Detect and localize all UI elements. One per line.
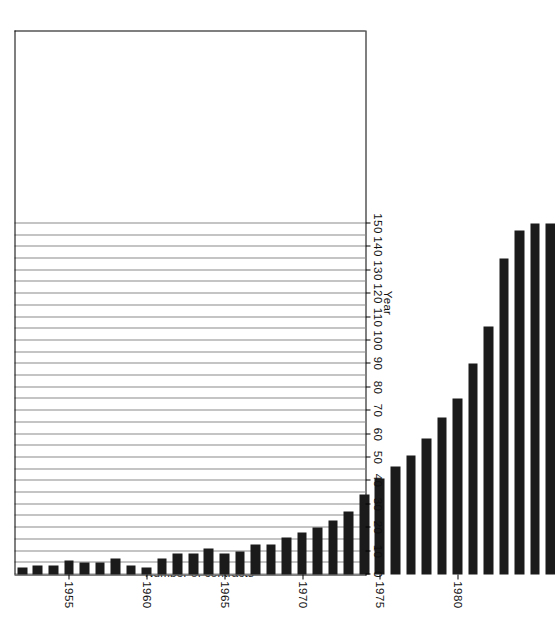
bar xyxy=(250,544,260,574)
bar xyxy=(95,562,105,574)
bar xyxy=(281,537,291,574)
value-tick xyxy=(365,386,370,387)
value-tick xyxy=(365,269,370,270)
value-tick-label: 40 xyxy=(371,474,383,488)
gridline xyxy=(14,222,365,223)
value-tick xyxy=(365,409,370,410)
value-tick xyxy=(365,479,370,480)
category-tick-label: 1970 xyxy=(296,581,308,608)
gridline xyxy=(14,339,365,340)
gridline xyxy=(14,503,365,504)
value-tick-label: 110 xyxy=(371,307,383,327)
category-tick-label: 1955 xyxy=(62,581,74,608)
gridline xyxy=(14,327,365,328)
value-tick xyxy=(365,550,370,551)
value-tick xyxy=(365,433,370,434)
value-tick-label: 0 xyxy=(371,571,383,578)
category-tick xyxy=(379,574,380,579)
bar xyxy=(32,565,42,574)
value-tick xyxy=(365,526,370,527)
value-tick xyxy=(365,245,370,246)
bar xyxy=(343,511,353,574)
gridline xyxy=(14,409,365,410)
bar xyxy=(188,553,198,574)
gridline xyxy=(14,281,365,282)
gridline xyxy=(14,292,365,293)
gridline xyxy=(14,316,365,317)
value-tick xyxy=(365,362,370,363)
bar xyxy=(406,455,416,574)
bar xyxy=(530,223,540,574)
value-tick-label: 120 xyxy=(371,283,383,303)
category-tick-label: 1965 xyxy=(218,581,230,608)
bar xyxy=(157,558,167,574)
value-tick-label: 80 xyxy=(371,380,383,394)
bar xyxy=(514,230,524,574)
value-tick-label: 70 xyxy=(371,403,383,417)
bar xyxy=(110,558,120,574)
value-tick-label: 140 xyxy=(371,236,383,256)
category-tick xyxy=(224,574,225,579)
gridline xyxy=(14,234,365,235)
bar xyxy=(359,494,369,574)
value-tick xyxy=(365,339,370,340)
bar xyxy=(266,544,276,574)
value-tick-label: 60 xyxy=(371,427,383,441)
value-tick-label: 100 xyxy=(371,330,383,350)
gridline xyxy=(14,515,365,516)
gridline xyxy=(14,304,365,305)
gridline xyxy=(14,269,365,270)
bar xyxy=(219,553,229,574)
value-tick-label: 10 xyxy=(371,544,383,558)
gridline xyxy=(14,479,365,480)
category-tick-label: 1960 xyxy=(140,581,152,608)
value-tick-label: 150 xyxy=(371,213,383,233)
value-tick-label: 50 xyxy=(371,450,383,464)
bar xyxy=(126,565,136,574)
bar xyxy=(437,417,447,574)
gridline xyxy=(14,351,365,352)
bar xyxy=(141,567,151,574)
category-tick xyxy=(68,574,69,579)
bar xyxy=(390,466,400,574)
bar xyxy=(235,551,245,574)
bar xyxy=(483,326,493,574)
value-tick xyxy=(365,292,370,293)
bar xyxy=(297,532,307,574)
bar xyxy=(48,565,58,574)
bar xyxy=(545,223,555,574)
gridline xyxy=(14,398,365,399)
gridline xyxy=(14,468,365,469)
gridline xyxy=(14,245,365,246)
value-tick xyxy=(365,222,370,223)
gridline xyxy=(14,257,365,258)
value-tick xyxy=(365,456,370,457)
bar xyxy=(328,520,338,574)
bar xyxy=(203,548,213,574)
value-tick-label: 90 xyxy=(371,357,383,371)
bar xyxy=(312,527,322,574)
gridline xyxy=(14,374,365,375)
category-tick-label: 1975 xyxy=(373,581,385,608)
gridline xyxy=(14,491,365,492)
bar xyxy=(17,567,27,574)
bar xyxy=(499,258,509,574)
bar xyxy=(421,438,431,574)
category-tick xyxy=(302,574,303,579)
category-tick xyxy=(457,574,458,579)
value-tick xyxy=(365,316,370,317)
bar xyxy=(452,399,462,575)
value-tick-label: 20 xyxy=(371,520,383,534)
gridline xyxy=(14,362,365,363)
bar xyxy=(64,560,74,574)
bar xyxy=(468,363,478,574)
category-tick-label: 1980 xyxy=(451,581,463,608)
bar xyxy=(79,562,89,574)
gridline xyxy=(14,433,365,434)
value-tick xyxy=(365,503,370,504)
gridline xyxy=(14,421,365,422)
plot-area: 0102030405060708090100110120130140150 19… xyxy=(14,30,366,575)
